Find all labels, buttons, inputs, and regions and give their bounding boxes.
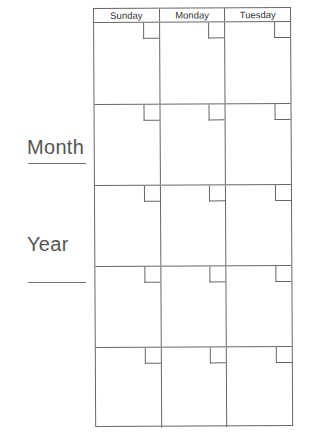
date-box [210, 266, 226, 282]
date-box [144, 348, 160, 364]
day-cell[interactable] [225, 22, 290, 103]
day-cell[interactable] [95, 105, 161, 185]
day-cell[interactable] [160, 104, 226, 184]
week-row [94, 22, 290, 105]
date-box [275, 185, 291, 201]
date-box [209, 185, 225, 201]
date-box [143, 105, 159, 121]
calendar-header: Sunday Monday Tuesday [94, 8, 290, 23]
year-field-line[interactable] [28, 282, 86, 283]
day-cell[interactable] [94, 23, 160, 104]
date-box [144, 186, 160, 202]
date-box [275, 104, 291, 120]
month-field-line[interactable] [28, 163, 86, 164]
day-cell[interactable] [95, 267, 161, 347]
calendar-grid: Sunday Monday Tuesday [93, 7, 293, 427]
day-cell[interactable] [227, 266, 292, 346]
date-box [143, 23, 159, 39]
day-cell[interactable] [161, 266, 227, 346]
date-box [209, 104, 225, 120]
date-box [208, 22, 224, 38]
date-box [275, 266, 291, 282]
day-cell[interactable] [226, 104, 291, 184]
day-cell[interactable] [96, 348, 162, 428]
day-header-monday: Monday [160, 8, 226, 21]
day-cell[interactable] [161, 185, 227, 265]
day-cell[interactable] [161, 347, 227, 427]
week-row [95, 266, 291, 348]
month-label: Month [27, 136, 84, 159]
date-box [274, 22, 290, 38]
day-header-sunday: Sunday [94, 9, 160, 22]
date-box [144, 267, 160, 283]
week-row [95, 104, 291, 186]
day-cell[interactable] [160, 22, 226, 103]
date-box [210, 347, 226, 363]
date-box [276, 347, 292, 363]
day-cell[interactable] [95, 186, 161, 266]
week-row [95, 185, 291, 267]
day-cell[interactable] [226, 185, 291, 265]
year-label: Year [27, 233, 69, 256]
day-cell[interactable] [227, 347, 292, 427]
week-row [96, 347, 292, 428]
day-header-tuesday: Tuesday [225, 8, 290, 21]
